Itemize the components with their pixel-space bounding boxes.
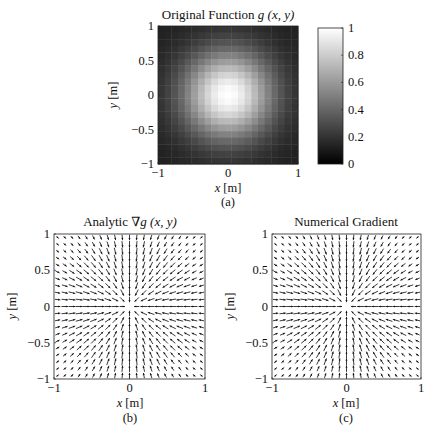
panel-a-title: Original Function g (x, y) <box>162 7 295 22</box>
panel-a: Original Function g (x, y) −10110.50−0.5… <box>106 7 301 209</box>
panel-a-caption: (a) <box>221 195 235 209</box>
y-tick-label: 0 <box>262 300 268 314</box>
colorbar-gradient <box>318 28 343 164</box>
panel-c-caption: (c) <box>339 411 353 425</box>
heatmap-image <box>158 26 298 164</box>
y-tick-label: −1 <box>255 372 268 386</box>
colorbar-tick-label: 0.2 <box>348 130 364 144</box>
y-tick-label: 0 <box>148 88 154 102</box>
colorbar: 10.80.60.40.20 <box>318 21 364 171</box>
x-tick-label: 0 <box>126 381 132 395</box>
colorbar-tick-label: 0 <box>348 157 354 171</box>
x-tick-label: 1 <box>295 166 301 180</box>
y-tick-label: −0.5 <box>131 123 154 137</box>
y-tick-label: −0.5 <box>27 336 50 350</box>
x-tick-label: 0 <box>225 166 231 180</box>
y-tick-label: 0 <box>44 300 50 314</box>
panel-b-title: Analytic ∇g (x, y) <box>83 214 177 229</box>
colorbar-tick-label: 0.4 <box>348 103 364 117</box>
colorbar-tick-label: 0.8 <box>348 48 364 62</box>
x-tick-label: 1 <box>418 381 424 395</box>
panel-a-xlabel: x [m] <box>214 181 242 195</box>
panel-a-ylabel: y [m] <box>106 82 120 111</box>
colorbar-ticks: 10.80.60.40.20 <box>341 21 364 171</box>
y-tick-label: 0.5 <box>34 263 50 277</box>
panel-c-ylabel: y [m] <box>223 293 237 322</box>
y-tick-label: 1 <box>44 227 50 241</box>
panel-b: Analytic ∇g (x, y) −10110.50−0.5−1 x [m]… <box>5 214 208 425</box>
y-tick-label: 0.5 <box>138 54 154 68</box>
panel-c: Numerical Gradient −10110.50−0.5−1 x [m]… <box>223 214 424 425</box>
y-tick-label: 1 <box>148 19 154 33</box>
y-tick-label: 0.5 <box>252 263 268 277</box>
colorbar-tick-label: 1 <box>348 21 354 35</box>
panel-c-title: Numerical Gradient <box>294 214 398 229</box>
panel-b-ylabel: y [m] <box>5 293 19 322</box>
panel-b-caption: (b) <box>123 411 138 425</box>
figure: Original Function g (x, y) −10110.50−0.5… <box>0 0 427 433</box>
y-tick-label: 1 <box>262 227 268 241</box>
x-tick-label: 1 <box>202 381 208 395</box>
panel-c-xlabel: x [m] <box>332 396 360 410</box>
colorbar-tick-label: 0.6 <box>348 75 364 89</box>
panel-b-xlabel: x [m] <box>116 396 144 410</box>
y-tick-label: −1 <box>141 157 154 171</box>
x-tick-label: 0 <box>343 381 349 395</box>
y-tick-label: −1 <box>37 372 50 386</box>
y-tick-label: −0.5 <box>245 336 268 350</box>
